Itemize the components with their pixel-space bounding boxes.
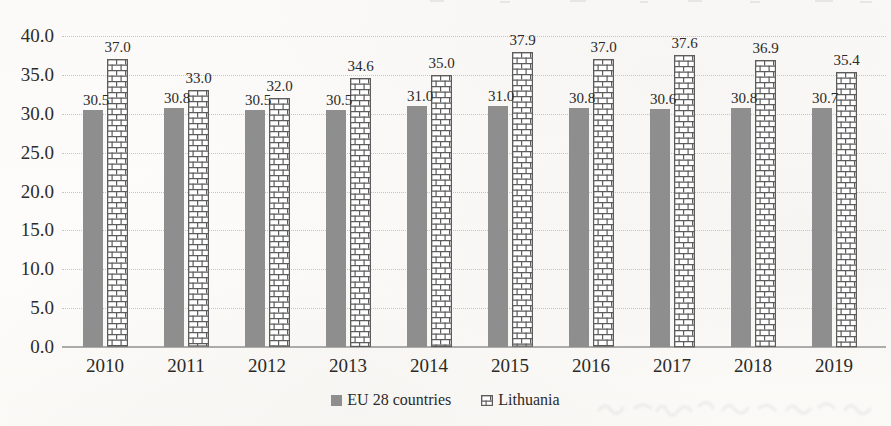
value-label-lithuania-2012: 32.0 <box>257 78 302 95</box>
bar-eu-28-countries-2018 <box>731 108 751 347</box>
value-label-eu-28-countries-2017: 30.6 <box>641 91 685 108</box>
value-label-lithuania-2011: 33.0 <box>176 70 221 87</box>
bar-eu-28-countries-2016 <box>569 108 589 347</box>
bar-eu-28-countries-2014 <box>407 106 427 347</box>
x-axis-label-2012: 2012 <box>232 355 302 376</box>
scanned-chart-page: 0.05.010.015.020.025.030.035.040.030.537… <box>0 0 891 426</box>
y-axis-label-10: 10.0 <box>0 258 54 280</box>
x-axis-label-2019: 2019 <box>799 355 869 376</box>
bar-eu-28-countries-2015 <box>488 106 508 347</box>
page-bleed-through-artifact <box>595 386 885 422</box>
value-label-eu-28-countries-2018: 30.8 <box>722 90 766 107</box>
value-label-lithuania-2014: 35.0 <box>419 55 464 72</box>
y-axis-label-40: 40.0 <box>0 25 54 47</box>
value-label-eu-28-countries-2013: 30.5 <box>317 92 361 109</box>
y-axis-label-15: 15.0 <box>0 219 54 241</box>
x-axis-label-2016: 2016 <box>556 355 626 376</box>
x-axis-label-2018: 2018 <box>718 355 788 376</box>
x-axis-label-2013: 2013 <box>313 355 383 376</box>
value-label-eu-28-countries-2014: 31.0 <box>398 88 442 105</box>
value-label-lithuania-2016: 37.0 <box>581 39 626 56</box>
x-axis-label-2011: 2011 <box>151 355 221 376</box>
bar-eu-28-countries-2012 <box>245 110 265 347</box>
legend-item-eu-28-countries: EU 28 countries <box>331 391 451 409</box>
value-label-eu-28-countries-2015: 31.0 <box>479 88 523 105</box>
value-label-eu-28-countries-2011: 30.8 <box>155 90 199 107</box>
y-axis-label-25: 25.0 <box>0 142 54 164</box>
bar-eu-28-countries-2019 <box>812 108 832 347</box>
x-axis-label-2017: 2017 <box>637 355 707 376</box>
bar-lithuania-2014 <box>431 75 452 348</box>
bar-eu-28-countries-2010 <box>83 110 103 347</box>
y-axis-label-0: 0.0 <box>0 336 54 358</box>
value-label-eu-28-countries-2010: 30.5 <box>74 92 118 109</box>
value-label-eu-28-countries-2016: 30.8 <box>560 90 604 107</box>
bar-eu-28-countries-2017 <box>650 109 670 347</box>
y-axis-label-30: 30.0 <box>0 103 54 125</box>
y-axis-label-5: 5.0 <box>0 297 54 319</box>
value-label-lithuania-2017: 37.6 <box>662 35 707 52</box>
x-axis-label-2010: 2010 <box>70 355 140 376</box>
value-label-lithuania-2018: 36.9 <box>743 40 788 57</box>
bar-lithuania-2013 <box>350 78 371 348</box>
bar-lithuania-2019 <box>836 72 857 348</box>
x-axis-label-2015: 2015 <box>475 355 545 376</box>
legend-label-lithuania: Lithuania <box>498 391 559 409</box>
value-label-eu-28-countries-2019: 30.7 <box>803 90 847 107</box>
bar-lithuania-2012 <box>269 98 290 347</box>
legend-swatch-brick <box>481 395 493 406</box>
legend-swatch-solid-gray <box>331 395 342 406</box>
bar-eu-28-countries-2011 <box>164 108 184 347</box>
value-label-lithuania-2015: 37.9 <box>500 32 545 49</box>
x-axis-label-2014: 2014 <box>394 355 464 376</box>
y-axis-label-35: 35.0 <box>0 64 54 86</box>
y-axis-label-20: 20.0 <box>0 181 54 203</box>
value-label-lithuania-2010: 37.0 <box>95 39 140 56</box>
value-label-lithuania-2019: 35.4 <box>824 52 869 69</box>
bar-eu-28-countries-2013 <box>326 110 346 347</box>
value-label-lithuania-2013: 34.6 <box>338 58 383 75</box>
bar-lithuania-2011 <box>188 90 209 347</box>
legend-label-eu-28-countries: EU 28 countries <box>347 391 451 409</box>
bar-chart: 0.05.010.015.020.025.030.035.040.030.537… <box>0 0 891 426</box>
legend-item-lithuania: Lithuania <box>481 391 559 409</box>
gridline-40 <box>62 36 886 37</box>
